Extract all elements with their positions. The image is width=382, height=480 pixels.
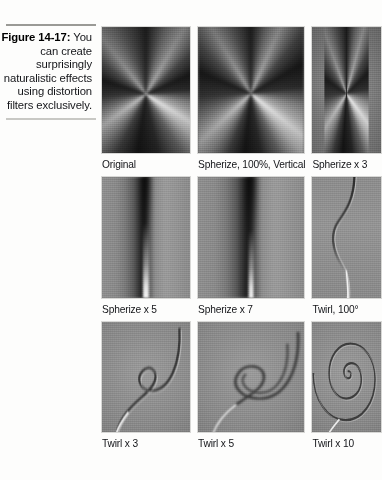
sample-image-twirl-x5 <box>197 321 305 433</box>
sample-image-original <box>101 26 191 154</box>
sample-image-twirl-x3 <box>101 321 191 433</box>
figure-caption-block: Figure 14-17: You can create surprisingl… <box>0 24 96 120</box>
figure-cell-twirl-x3: Twirl x 3 <box>101 321 191 455</box>
figure-cell-spherize-x7: Spherize x 7 <box>197 176 305 321</box>
figure-cell-original: Original <box>101 26 191 176</box>
caption-rule-bottom <box>6 118 96 120</box>
sample-image-twirl-100 <box>311 176 382 299</box>
figure-cell-spherize-x3: Spherize x 3 <box>311 26 382 176</box>
twirl-bend-curve <box>312 177 381 298</box>
sample-label-twirl-x10: Twirl x 10 <box>311 433 382 455</box>
figure-number-label: Figure 14-17: <box>1 31 70 43</box>
figure-cell-twirl-x5: Twirl x 5 <box>197 321 305 455</box>
spiral-curve-5 <box>198 322 304 432</box>
spiral-curve-3 <box>102 322 190 432</box>
sample-image-spherize-vertical <box>197 26 305 154</box>
sample-label-original: Original <box>101 154 191 176</box>
sample-label-spherize-x5: Spherize x 5 <box>101 299 191 321</box>
sample-label-twirl-x3: Twirl x 3 <box>101 433 191 455</box>
figure-cell-twirl-100: Twirl, 100° <box>311 176 382 321</box>
caption-rule-top <box>6 24 96 26</box>
spiral-curve-10 <box>312 322 381 432</box>
sample-label-spherize-x3: Spherize x 3 <box>311 154 382 176</box>
figure-image-grid: Original Spherize, 100%, Vertical Spheri… <box>101 26 382 455</box>
sample-image-twirl-x10 <box>311 321 382 433</box>
sample-image-spherize-x3 <box>311 26 382 154</box>
sample-label-spherize-vertical: Spherize, 100%, Vertical <box>197 154 305 176</box>
sample-label-twirl-x5: Twirl x 5 <box>197 433 305 455</box>
sample-image-spherize-x7 <box>197 176 305 299</box>
sample-label-twirl-100: Twirl, 100° <box>311 299 382 321</box>
figure-caption-text: Figure 14-17: You can create surprisingl… <box>0 31 96 113</box>
figure-cell-twirl-x10: Twirl x 10 <box>311 321 382 455</box>
sample-label-spherize-x7: Spherize x 7 <box>197 299 305 321</box>
sample-image-spherize-x5 <box>101 176 191 299</box>
figure-cell-spherize-vertical: Spherize, 100%, Vertical <box>197 26 305 176</box>
figure-cell-spherize-x5: Spherize x 5 <box>101 176 191 321</box>
